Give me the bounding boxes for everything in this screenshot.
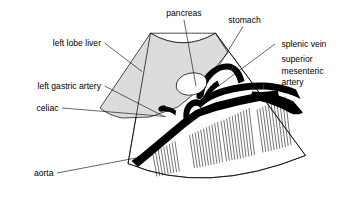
label-left-gastric-artery: left gastric artery [37,81,101,91]
label-aorta: aorta [34,168,54,178]
label-superior-mesenteric-artery-line1: superior [282,54,313,64]
shadow-band-3 [221,108,255,161]
label-splenic-vein: splenic vein [282,39,327,49]
diagram-canvas: pancreas stomach splenic vein superior m… [0,0,356,207]
splenic-vein-dot [196,93,202,99]
label-superior-mesenteric-artery-line2: mesenteric [282,66,325,76]
label-celiac: celiac [37,103,60,113]
shadow-band-2 [190,122,223,168]
ultrasound-diagram-figure: pancreas stomach splenic vein superior m… [0,0,356,207]
label-left-lobe-liver: left lobe liver [53,38,101,48]
label-stomach: stomach [228,15,261,25]
label-superior-mesenteric-artery-line3: artery [282,77,305,87]
leader-aorta [57,158,136,173]
label-pancreas: pancreas [166,8,201,18]
